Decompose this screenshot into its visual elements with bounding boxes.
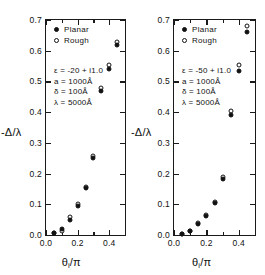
legend-label-planar: Planar: [64, 24, 89, 35]
x-axis-title-rest: /π: [70, 256, 81, 268]
data-point-planar: [91, 155, 96, 160]
y-tick-major-right: [250, 51, 255, 52]
x-tick-major: [206, 230, 207, 235]
plot-area-right: 0.00.20.40.00.10.20.30.40.50.60.7: [174, 20, 255, 235]
y-tick-major: [174, 20, 179, 21]
y-tick-major: [174, 143, 179, 144]
x-tick-minor: [255, 232, 256, 235]
legend-left: Planar Rough: [54, 24, 89, 46]
legend-item-planar: Planar: [182, 24, 217, 35]
data-point-planar: [107, 67, 112, 72]
data-point-planar: [51, 231, 56, 236]
y-tick-major: [46, 81, 51, 82]
data-point-planar: [180, 231, 185, 236]
data-point-planar: [204, 213, 209, 218]
y-tick-label: 0.2: [158, 169, 170, 178]
y-tick-label: 0.4: [158, 108, 170, 117]
y-tick-label: 0.0: [158, 231, 170, 240]
open-circle-icon: [182, 38, 187, 43]
y-tick-major-right: [120, 143, 125, 144]
data-point-planar: [228, 113, 233, 118]
y-tick-major: [174, 235, 179, 236]
annotation-lambda: λ = 5000Å: [182, 98, 231, 109]
legend-item-planar: Planar: [54, 24, 89, 35]
data-point-planar: [212, 201, 217, 206]
x-tick-label: 0.4: [233, 239, 245, 248]
data-point-planar: [115, 42, 120, 47]
plot-area-left: 0.00.20.40.00.10.20.30.40.50.60.7: [46, 20, 125, 235]
filled-circle-icon: [54, 27, 59, 32]
y-tick-label: 0.7: [30, 16, 42, 25]
y-tick-label: 0.3: [158, 139, 170, 148]
data-point-planar: [196, 222, 201, 227]
data-point-planar: [244, 30, 249, 35]
x-tick-label: 0.0: [168, 239, 180, 248]
data-point-rough: [244, 24, 249, 29]
y-tick-label: 0.6: [30, 46, 42, 55]
y-tick-major-right: [250, 174, 255, 175]
x-tick-major: [78, 230, 79, 235]
x-tick-label: 0.0: [40, 239, 52, 248]
data-point-planar: [188, 229, 193, 234]
x-tick-minor-top: [93, 20, 94, 23]
data-point-planar: [59, 227, 64, 232]
x-tick-label: 0.2: [71, 239, 83, 248]
parameter-annotations-left: ε = -20 + i1.0 a = 1000Å δ = 100Å λ = 50…: [54, 66, 103, 108]
y-tick-major-right: [120, 51, 125, 52]
y-tick-major-right: [250, 143, 255, 144]
y-tick-label: 0.0: [30, 231, 42, 240]
data-point-planar: [236, 68, 241, 73]
y-tick-label: 0.4: [30, 108, 42, 117]
x-tick-major-top: [239, 20, 240, 25]
filled-circle-icon: [182, 27, 187, 32]
legend-item-rough: Rough: [182, 35, 217, 46]
x-tick-minor: [125, 232, 126, 235]
legend-label-rough: Rough: [64, 35, 89, 46]
y-tick-label: 0.1: [158, 200, 170, 209]
y-tick-label: 0.7: [158, 16, 170, 25]
y-tick-major: [46, 235, 51, 236]
x-tick-minor: [93, 232, 94, 235]
annotation-epsilon: ε = -50 + i1.0: [182, 66, 231, 77]
x-axis-title-left: θi/π: [62, 256, 81, 270]
y-tick-major: [174, 174, 179, 175]
y-tick-label: 0.6: [158, 46, 170, 55]
panel-left: -Δ/λ θi/π 0.00.20.40.00.10.20.30.40.50.6…: [0, 0, 132, 275]
y-tick-label: 0.2: [30, 169, 42, 178]
y-tick-major: [46, 51, 51, 52]
y-axis-title-left: -Δ/λ: [1, 126, 21, 138]
y-tick-label: 0.3: [30, 139, 42, 148]
panel-right: -Δ/λ θi/π 0.00.20.40.00.10.20.30.40.50.6…: [133, 0, 265, 275]
x-tick-major-top: [109, 20, 110, 25]
y-tick-major-right: [250, 235, 255, 236]
data-point-planar: [75, 203, 80, 208]
annotation-lambda: λ = 5000Å: [54, 98, 103, 109]
y-tick-major-right: [250, 81, 255, 82]
y-tick-major-right: [250, 204, 255, 205]
annotation-delta: δ = 100Å: [54, 87, 103, 98]
x-axis-title-right: θi/π: [192, 256, 211, 270]
y-tick-major: [46, 174, 51, 175]
x-axis-title-rest: /π: [200, 256, 211, 268]
y-tick-major-right: [250, 20, 255, 21]
x-tick-label: 0.4: [103, 239, 115, 248]
y-tick-major: [46, 20, 51, 21]
x-tick-minor-top: [223, 20, 224, 23]
annotation-a: a = 1000Å: [182, 77, 231, 88]
y-tick-major: [174, 51, 179, 52]
y-tick-label: 0.5: [158, 77, 170, 86]
y-tick-major: [46, 112, 51, 113]
annotation-epsilon: ε = -20 + i1.0: [54, 66, 103, 77]
x-tick-minor-top: [62, 20, 63, 23]
legend-label-planar: Planar: [192, 24, 217, 35]
open-circle-icon: [54, 38, 59, 43]
x-tick-label: 0.2: [200, 239, 212, 248]
annotation-a: a = 1000Å: [54, 77, 103, 88]
parameter-annotations-right: ε = -50 + i1.0 a = 1000Å δ = 100Å λ = 50…: [182, 66, 231, 108]
legend-item-rough: Rough: [54, 35, 89, 46]
y-tick-label: 0.1: [30, 200, 42, 209]
data-point-planar: [67, 217, 72, 222]
y-tick-major: [46, 204, 51, 205]
y-tick-major-right: [250, 112, 255, 113]
data-point-planar: [220, 177, 225, 182]
